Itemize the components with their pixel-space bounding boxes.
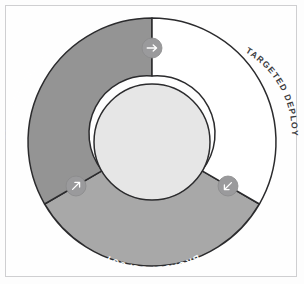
arrow-up-right-icon[interactable] <box>66 176 86 196</box>
figure-root: BROADLY DEPLOY PLAN AND PREPARE TARGETED… <box>0 0 304 284</box>
arrow-right-icon[interactable] <box>142 38 162 58</box>
arrow-down-left-icon[interactable] <box>218 176 238 196</box>
center-hub <box>94 84 210 200</box>
deployment-cycle-diagram: BROADLY DEPLOY PLAN AND PREPARE TARGETED… <box>0 0 304 284</box>
